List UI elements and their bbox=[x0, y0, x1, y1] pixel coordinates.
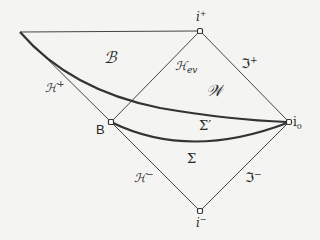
sigma-prime-label: Σ′ bbox=[199, 118, 211, 133]
top-horizontal-line bbox=[20, 31, 197, 32]
B-point bbox=[109, 120, 114, 125]
i-minus-point bbox=[198, 209, 203, 214]
penrose-diagram: i+ i0 i− B ℬ 𝒲 ℋ+ ℋev ℑ+ ℋ− ℑ− Σ′ Σ bbox=[0, 0, 320, 240]
horizon-minus-label: ℋ− bbox=[134, 169, 154, 185]
i-minus-label: i− bbox=[196, 215, 207, 230]
scri-minus-label: ℑ− bbox=[245, 169, 262, 185]
B-label: B bbox=[96, 122, 105, 137]
scri-plus-label: ℑ+ bbox=[241, 55, 258, 71]
region-W-label: 𝒲 bbox=[206, 81, 227, 100]
i-zero-point bbox=[287, 120, 292, 125]
i-plus-point bbox=[198, 29, 203, 34]
upper-boundary-curve bbox=[20, 32, 287, 122]
i-plus-label: i+ bbox=[196, 9, 207, 24]
region-B-label: ℬ bbox=[104, 48, 118, 67]
event-horizon-label: ℋev bbox=[175, 59, 197, 75]
horizon-plus-label: ℋ+ bbox=[45, 79, 65, 95]
i-zero-label: i0 bbox=[293, 115, 302, 131]
scri-plus-line bbox=[202, 33, 287, 120]
sigma-label: Σ bbox=[187, 151, 196, 166]
